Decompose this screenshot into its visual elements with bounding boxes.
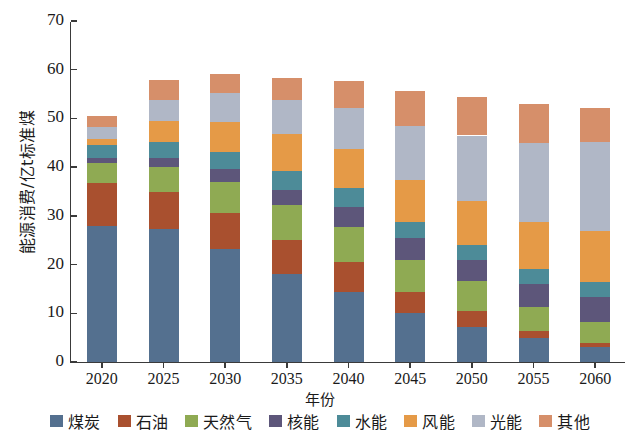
- x-tick-label: 2020: [70, 370, 134, 388]
- legend-item[interactable]: 风能: [404, 409, 455, 430]
- bar-segment[interactable]: [87, 163, 117, 182]
- bar-segment[interactable]: [519, 331, 549, 338]
- stacked-bar[interactable]: [580, 108, 610, 362]
- legend-label: 天然气: [203, 409, 252, 430]
- bar-segment[interactable]: [272, 171, 302, 190]
- bar-segment[interactable]: [519, 269, 549, 284]
- legend-item[interactable]: 光能: [472, 409, 523, 430]
- bar-segment[interactable]: [272, 100, 302, 134]
- bar-segment[interactable]: [334, 81, 364, 107]
- legend-item[interactable]: 水能: [337, 409, 388, 430]
- bar-segment[interactable]: [395, 222, 425, 238]
- bar-segment[interactable]: [334, 292, 364, 362]
- stacked-bar[interactable]: [210, 74, 240, 362]
- y-tick-label: 30: [47, 205, 64, 225]
- bar-segment[interactable]: [272, 134, 302, 171]
- bar-segment[interactable]: [395, 260, 425, 292]
- bar-segment[interactable]: [149, 121, 179, 142]
- bar-segment[interactable]: [272, 190, 302, 206]
- bar-segment[interactable]: [87, 226, 117, 362]
- bar-segment[interactable]: [210, 249, 240, 362]
- bar-segment[interactable]: [395, 238, 425, 259]
- bar-segment[interactable]: [580, 347, 610, 362]
- bar-segment[interactable]: [272, 240, 302, 274]
- bar-segment[interactable]: [519, 307, 549, 331]
- legend-item[interactable]: 其他: [539, 409, 590, 430]
- bar-segment[interactable]: [580, 282, 610, 297]
- bar-segment[interactable]: [519, 338, 549, 362]
- legend-item[interactable]: 天然气: [185, 409, 252, 430]
- bar-segment[interactable]: [519, 222, 549, 269]
- bar-segment[interactable]: [457, 281, 487, 312]
- bar-segment[interactable]: [272, 78, 302, 100]
- bar-segment[interactable]: [210, 182, 240, 214]
- bar-segment[interactable]: [457, 245, 487, 260]
- bar-segment[interactable]: [210, 93, 240, 122]
- x-tick-mark: [471, 362, 472, 368]
- bar-segment[interactable]: [87, 116, 117, 127]
- bar-segment[interactable]: [334, 262, 364, 293]
- bar-segment[interactable]: [580, 142, 610, 231]
- y-tick-label: 20: [47, 254, 64, 274]
- bar-segment[interactable]: [272, 205, 302, 240]
- stacked-bar[interactable]: [87, 116, 117, 362]
- x-tick-label: 2050: [440, 370, 504, 388]
- bar-segment[interactable]: [457, 97, 487, 136]
- bar-segment[interactable]: [580, 343, 610, 347]
- stacked-bar[interactable]: [149, 80, 179, 362]
- bar-segment[interactable]: [210, 74, 240, 93]
- bar-segment[interactable]: [149, 192, 179, 229]
- bar-segment[interactable]: [210, 169, 240, 182]
- legend-swatch-icon: [337, 415, 350, 427]
- stacked-bar-chart: 能源消费/亿t标准煤 010203040506070 2020202520302…: [0, 0, 640, 430]
- stacked-bar[interactable]: [519, 104, 549, 362]
- bar-segment[interactable]: [580, 297, 610, 322]
- stacked-bar[interactable]: [334, 81, 364, 362]
- bar-segment[interactable]: [457, 136, 487, 202]
- bar-segment[interactable]: [395, 91, 425, 127]
- stacked-bar[interactable]: [395, 91, 425, 362]
- bar-segment[interactable]: [210, 122, 240, 152]
- bar-segment[interactable]: [457, 311, 487, 327]
- bar-segment[interactable]: [87, 139, 117, 144]
- bar-segment[interactable]: [457, 260, 487, 280]
- bar-segment[interactable]: [519, 143, 549, 222]
- legend-item[interactable]: 核能: [269, 409, 320, 430]
- bar-segment[interactable]: [87, 158, 117, 163]
- bar-segment[interactable]: [87, 145, 117, 159]
- bar-segment[interactable]: [87, 127, 117, 140]
- bar-segment[interactable]: [210, 152, 240, 169]
- bar-segment[interactable]: [149, 167, 179, 191]
- bar-segment[interactable]: [149, 80, 179, 99]
- legend-swatch-icon: [404, 415, 417, 427]
- bar-segment[interactable]: [87, 183, 117, 226]
- bar-segment[interactable]: [149, 158, 179, 167]
- bar-segment[interactable]: [395, 180, 425, 222]
- bar-segment[interactable]: [580, 108, 610, 142]
- stacked-bar[interactable]: [272, 78, 302, 362]
- y-tick-mark: [71, 313, 77, 314]
- bar-segment[interactable]: [519, 104, 549, 143]
- stacked-bar[interactable]: [457, 97, 487, 362]
- bar-segment[interactable]: [334, 227, 364, 262]
- bar-segment[interactable]: [334, 149, 364, 188]
- x-axis-title: 年份: [0, 388, 640, 409]
- bar-segment[interactable]: [457, 327, 487, 362]
- bar-segment[interactable]: [395, 292, 425, 313]
- bar-segment[interactable]: [457, 201, 487, 245]
- bar-segment[interactable]: [580, 322, 610, 342]
- bar-segment[interactable]: [210, 213, 240, 249]
- bar-segment[interactable]: [519, 284, 549, 307]
- bar-segment[interactable]: [149, 142, 179, 158]
- bar-segment[interactable]: [334, 188, 364, 207]
- bar-segment[interactable]: [334, 108, 364, 149]
- bar-segment[interactable]: [395, 126, 425, 180]
- bar-segment[interactable]: [149, 229, 179, 362]
- bar-segment[interactable]: [334, 207, 364, 226]
- bar-segment[interactable]: [272, 274, 302, 362]
- bar-segment[interactable]: [580, 231, 610, 282]
- bar-segment[interactable]: [395, 313, 425, 362]
- legend-item[interactable]: 石油: [118, 409, 169, 430]
- bar-segment[interactable]: [149, 100, 179, 121]
- legend-item[interactable]: 煤炭: [50, 409, 101, 430]
